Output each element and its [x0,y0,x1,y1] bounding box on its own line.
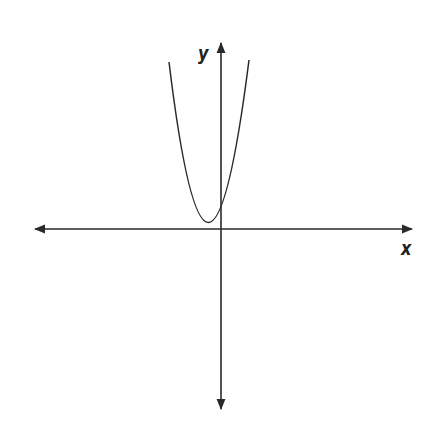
x-axis-label: x [401,236,411,260]
y-axis-label: y [198,41,208,65]
coordinate-plane [0,0,435,444]
parabola-curve [169,60,249,223]
